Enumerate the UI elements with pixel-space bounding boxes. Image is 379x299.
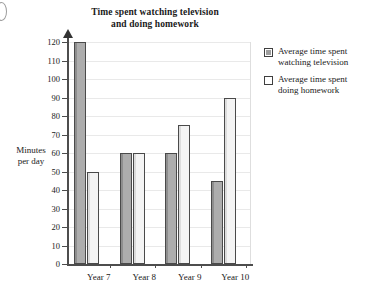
gridline: [68, 98, 250, 99]
y-tick-mark: [62, 246, 68, 247]
x-tick-mark: [246, 264, 247, 268]
plot-right-border: [250, 42, 251, 264]
x-tick-mark: [155, 264, 156, 268]
y-tick-label-text: 60: [36, 149, 60, 158]
y-tick-label-text: 10: [36, 242, 60, 251]
gridline: [68, 116, 250, 117]
y-tick-label-text: 40: [36, 186, 60, 195]
x-axis-line: [67, 264, 253, 266]
x-axis-label-year-8: Year 8: [118, 272, 170, 283]
bar-year-10-television: [211, 181, 223, 264]
bar-year-7-homework: [87, 172, 99, 265]
y-tick-label: 60: [36, 149, 60, 158]
gridline: [68, 42, 250, 43]
legend-swatch-television-icon: [264, 48, 273, 57]
y-tick-label: 70: [36, 131, 60, 140]
y-tick-label-text: 70: [36, 131, 60, 140]
y-tick-label: 90: [36, 94, 60, 103]
y-tick-label: 30: [36, 205, 60, 214]
bar-year-8-homework: [133, 153, 145, 264]
legend-label-homework-line-2: doing homework: [278, 85, 347, 96]
bar-year-10-homework: [224, 98, 236, 265]
gridline: [68, 135, 250, 136]
y-tick-mark: [62, 98, 68, 99]
y-tick-mark: [62, 209, 68, 210]
page-edge-artifact: [0, 2, 7, 21]
y-tick-mark: [62, 42, 68, 43]
y-tick-label: 80: [36, 112, 60, 121]
y-tick-label-text: 30: [36, 205, 60, 214]
bar-year-9-television: [165, 153, 177, 264]
x-axis-label-year-9: Year 9: [164, 272, 216, 283]
x-axis-label-year-7: Year 7: [73, 272, 125, 283]
y-tick-label-text: 100: [36, 75, 60, 84]
y-tick-label: 10: [36, 242, 60, 251]
gridline: [68, 61, 250, 62]
y-tick-label-text: 120: [36, 38, 60, 47]
chart-title-line-2: and doing homework: [60, 18, 250, 30]
y-tick-mark: [62, 61, 68, 62]
y-tick-label-text: 90: [36, 94, 60, 103]
legend-label-television: Average time spent watching television: [278, 46, 348, 68]
y-tick-label: 50: [36, 168, 60, 177]
y-tick-mark: [62, 153, 68, 154]
plot-area: [68, 42, 250, 264]
y-tick-label-text: 0: [36, 260, 60, 269]
y-tick-label-text: 110: [36, 57, 60, 66]
bar-year-7-television: [74, 42, 86, 264]
y-axis-arrow-icon: [63, 29, 73, 38]
y-tick-label: 20: [36, 223, 60, 232]
bar-year-8-television: [120, 153, 132, 264]
legend-item-television: Average time spent watching television: [264, 46, 378, 68]
y-tick-mark: [62, 172, 68, 173]
legend-label-television-line-1: Average time spent: [278, 46, 348, 57]
y-tick-label: 110: [36, 57, 60, 66]
legend-item-homework: Average time spent doing homework: [264, 74, 378, 96]
legend-swatch-homework-icon: [264, 76, 273, 85]
y-tick-mark: [62, 227, 68, 228]
y-tick-label: 40: [36, 186, 60, 195]
legend-label-television-line-2: watching television: [278, 57, 348, 68]
y-tick-label-text: 20: [36, 223, 60, 232]
gridline: [68, 79, 250, 80]
chart-legend: Average time spent watching television A…: [264, 46, 378, 102]
y-tick-label: 0: [36, 260, 60, 269]
x-axis-label-year-10: Year 10: [209, 272, 261, 283]
legend-label-homework-line-1: Average time spent: [278, 74, 347, 85]
bar-year-9-homework: [178, 125, 190, 264]
x-tick-mark: [201, 264, 202, 268]
chart-title: Time spent watching television and doing…: [60, 6, 250, 30]
y-tick-label: 100: [36, 75, 60, 84]
x-tick-mark: [110, 264, 111, 268]
chart-title-line-1: Time spent watching television: [60, 6, 250, 18]
y-tick-label-text: 80: [36, 112, 60, 121]
y-tick-label: 120: [36, 38, 60, 47]
gridline: [68, 153, 250, 154]
y-tick-mark: [62, 116, 68, 117]
y-tick-mark: [62, 190, 68, 191]
y-tick-mark: [62, 79, 68, 80]
y-tick-mark: [62, 135, 68, 136]
y-tick-label-text: 50: [36, 168, 60, 177]
y-tick-mark: [62, 264, 68, 265]
legend-label-homework: Average time spent doing homework: [278, 74, 347, 96]
y-axis-line: [67, 36, 69, 265]
